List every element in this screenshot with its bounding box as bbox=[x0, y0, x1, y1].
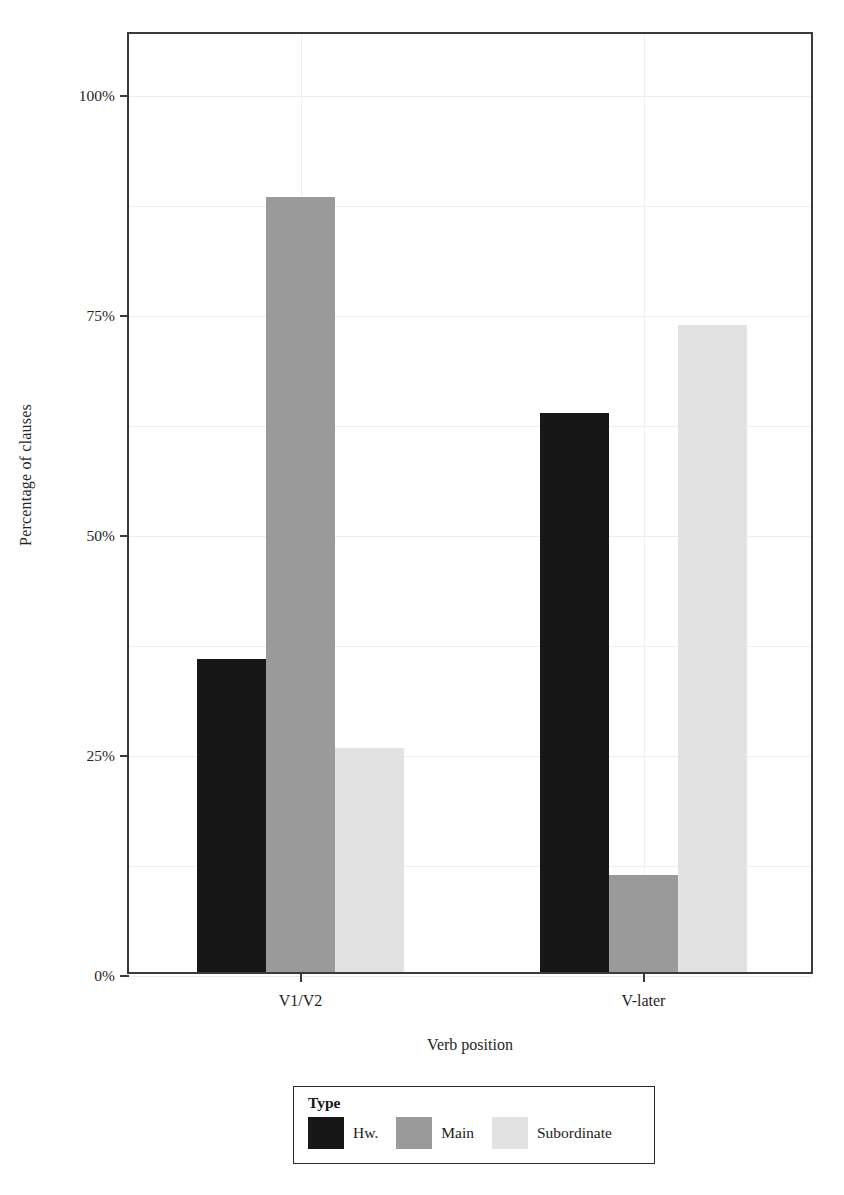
bar bbox=[540, 413, 609, 972]
bar bbox=[335, 748, 404, 972]
legend-swatch bbox=[308, 1117, 344, 1149]
y-axis-tick-label: 75% bbox=[87, 307, 115, 325]
legend-swatch bbox=[396, 1117, 432, 1149]
bar-chart-figure: Percentage of clauses 0%25%50%75%100%V1/… bbox=[0, 0, 844, 1195]
y-axis-tick bbox=[120, 755, 129, 757]
x-axis-tick bbox=[643, 972, 645, 982]
y-axis-tick-label: 0% bbox=[94, 967, 115, 985]
x-axis-tick bbox=[300, 972, 302, 982]
bar bbox=[197, 659, 266, 972]
legend: Type Hw.MainSubordinate bbox=[293, 1086, 655, 1164]
x-axis-tick-label: V1/V2 bbox=[279, 992, 323, 1010]
y-axis-tick bbox=[120, 975, 129, 977]
bar bbox=[609, 875, 678, 972]
legend-swatch bbox=[492, 1117, 528, 1149]
bar bbox=[266, 197, 335, 972]
legend-items: Hw.MainSubordinate bbox=[308, 1117, 642, 1149]
legend-label: Main bbox=[441, 1124, 474, 1142]
minor-gridline bbox=[129, 206, 811, 207]
legend-label: Subordinate bbox=[537, 1124, 612, 1142]
y-axis-tick-label: 25% bbox=[87, 747, 115, 765]
y-axis-title: Percentage of clauses bbox=[17, 385, 35, 565]
plot-area: 0%25%50%75%100%V1/V2V-later bbox=[127, 32, 813, 974]
major-gridline bbox=[129, 976, 811, 977]
legend-item: Subordinate bbox=[492, 1117, 630, 1149]
y-axis-tick bbox=[120, 315, 129, 317]
legend-label: Hw. bbox=[353, 1124, 378, 1142]
legend-item: Main bbox=[396, 1117, 492, 1149]
y-axis-tick-label: 100% bbox=[79, 87, 115, 105]
legend-title: Type bbox=[308, 1094, 642, 1112]
bar bbox=[678, 325, 747, 972]
y-axis-tick bbox=[120, 95, 129, 97]
legend-item: Hw. bbox=[308, 1117, 396, 1149]
category-gridline bbox=[644, 34, 645, 972]
y-axis-tick bbox=[120, 535, 129, 537]
x-axis-title: Verb position bbox=[127, 1036, 813, 1054]
y-axis-tick-label: 50% bbox=[87, 527, 115, 545]
x-axis-tick-label: V-later bbox=[622, 992, 666, 1010]
major-gridline bbox=[129, 316, 811, 317]
major-gridline bbox=[129, 96, 811, 97]
